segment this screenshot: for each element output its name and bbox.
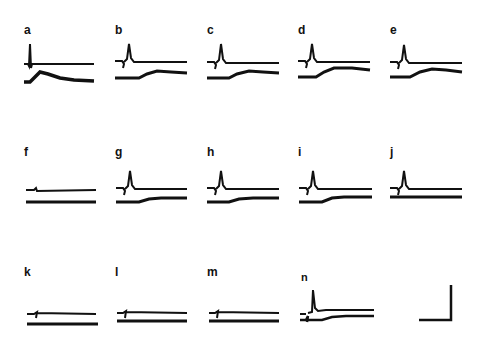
trace-plot: [115, 266, 195, 336]
trace-plot: [298, 146, 378, 216]
panel-h: h: [207, 146, 287, 216]
panel-c: c: [207, 24, 287, 94]
trace-plot: [115, 146, 195, 216]
panel-f: f: [24, 146, 104, 216]
trace-plot: [24, 146, 104, 216]
trace-plot: [207, 266, 287, 336]
panel-m: m: [207, 266, 287, 336]
panel-b: b: [115, 24, 195, 94]
trace-plot: [390, 146, 470, 216]
trace-plot: [24, 266, 104, 336]
panel-l: l: [115, 266, 195, 336]
trace-plot: [207, 146, 287, 216]
trace-plot: [207, 24, 287, 94]
panel-g: g: [115, 146, 195, 216]
trace-plot: [298, 24, 378, 94]
panel-k: k: [24, 266, 104, 336]
trace-plot: [390, 24, 470, 94]
panel-j: j: [390, 146, 470, 216]
trace-plot: [115, 24, 195, 94]
panel-i: i: [298, 146, 378, 216]
panel-n: n: [298, 266, 388, 336]
trace-plot: [298, 266, 388, 336]
panel-a: a: [24, 24, 104, 94]
panel-e: e: [390, 24, 470, 94]
panel-d: d: [298, 24, 378, 94]
trace-plot: [24, 24, 104, 94]
